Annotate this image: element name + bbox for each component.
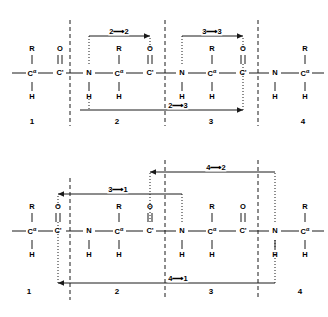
alpha-superscript: α (120, 226, 123, 232)
atom-bottom-r3-ca: Cα (208, 227, 217, 236)
residue-number-bottom-4: 4 (298, 287, 302, 296)
atom-top-r4-ca-R: R (302, 45, 307, 53)
alpha-superscript: α (33, 226, 36, 232)
atom-top-r3-ca-H: H (209, 93, 214, 101)
atom-bottom-r1-o: O (55, 203, 61, 211)
atom-top-r4-ca-H: H (302, 93, 307, 101)
atom-top-r4-ca: Cα (301, 69, 310, 78)
alpha-superscript: α (213, 68, 216, 74)
atom-bottom-r1-cp: C' (54, 227, 61, 235)
arrow-3-3-head (237, 33, 243, 39)
atom-top-r2-cp: C' (146, 69, 153, 77)
atom-bottom-r1-ca: Cα (28, 227, 37, 236)
diagram-vector-layer (0, 0, 328, 317)
arrow-3-1-head (58, 191, 64, 197)
arrow-4-2-head (150, 169, 156, 175)
residue-number-top-4: 4 (301, 117, 305, 126)
atom-bottom-r3-ca-R: R (209, 203, 214, 211)
atom-bottom-r4-ca-H: H (302, 251, 307, 259)
alpha-superscript: α (120, 68, 123, 74)
atom-top-r3-ca-R: R (209, 45, 214, 53)
residue-number-bottom-1: 1 (27, 287, 31, 296)
atom-bottom-r2-ca-R: R (116, 203, 121, 211)
atom-bottom-r3-o: O (240, 203, 246, 211)
atom-bottom-r4-n: N (272, 227, 277, 235)
atom-top-r1-cp: C' (56, 69, 63, 77)
arrow-label-3-1: 3⟶1 (107, 185, 128, 194)
atom-top-r2-ca: Cα (115, 69, 124, 78)
atom-top-r3-n: N (179, 69, 184, 77)
atom-bottom-r2-n-H: H (86, 251, 91, 259)
atom-bottom-r1-ca-H: H (29, 251, 34, 259)
residue-number-bottom-3: 3 (209, 287, 213, 296)
atom-bottom-r4-ca: Cα (301, 227, 310, 236)
atom-bottom-r1-ca-R: R (29, 203, 34, 211)
atom-top-r1-ca-H: H (29, 93, 34, 101)
atom-bottom-r3-ca-H: H (209, 251, 214, 259)
atom-top-r3-cp: C' (239, 69, 246, 77)
alpha-superscript: α (306, 68, 309, 74)
atom-top-r2-ca-R: R (116, 45, 121, 53)
atom-top-r2-o: O (147, 45, 153, 53)
arrow-2-3-head (237, 107, 243, 113)
atom-top-r3-ca: Cα (208, 69, 217, 78)
atom-bottom-r2-ca: Cα (115, 227, 124, 236)
atom-top-r2-n-H: H (86, 93, 91, 101)
alpha-superscript: α (213, 226, 216, 232)
residue-number-top-2: 2 (115, 117, 119, 126)
atom-top-r4-n: N (272, 69, 277, 77)
alpha-superscript: α (33, 68, 36, 74)
atom-bottom-r4-n-H: H (272, 251, 277, 259)
atom-bottom-r2-o: O (147, 203, 153, 211)
residue-number-top-1: 1 (30, 117, 34, 126)
arrow-label-4-2: 4⟶2 (205, 163, 226, 172)
atom-top-r1-ca: Cα (28, 69, 37, 78)
atom-bottom-r3-cp: C' (239, 227, 246, 235)
diagram-canvas: Cα R H C' O N H Cα R H C' O N H Cα R H C… (0, 0, 328, 317)
residue-number-top-3: 3 (209, 117, 213, 126)
atom-top-r4-n-H: H (272, 93, 277, 101)
alpha-superscript: α (306, 226, 309, 232)
atom-top-r1-o: O (57, 45, 63, 53)
atom-top-r2-n: N (86, 69, 91, 77)
arrow-label-3-3: 3⟶3 (201, 27, 222, 36)
atom-top-r3-o: O (240, 45, 246, 53)
arrow-2-2-head (144, 33, 150, 39)
arrow-label-2-3: 2⟶3 (167, 101, 188, 110)
arrow-label-2-2: 2⟶2 (108, 27, 129, 36)
atom-bottom-r2-ca-H: H (116, 251, 121, 259)
atom-top-r2-ca-H: H (116, 93, 121, 101)
atom-bottom-r3-n-H: H (179, 251, 184, 259)
atom-bottom-r4-ca-R: R (302, 203, 307, 211)
atom-top-r1-ca-R: R (29, 45, 34, 53)
atom-bottom-r2-n: N (86, 227, 91, 235)
arrow-4-1-head (58, 280, 64, 286)
atom-bottom-r2-cp: C' (146, 227, 153, 235)
arrow-label-4-1: 4⟶1 (167, 274, 188, 283)
residue-number-bottom-2: 2 (115, 287, 119, 296)
atom-bottom-r3-n: N (179, 227, 184, 235)
